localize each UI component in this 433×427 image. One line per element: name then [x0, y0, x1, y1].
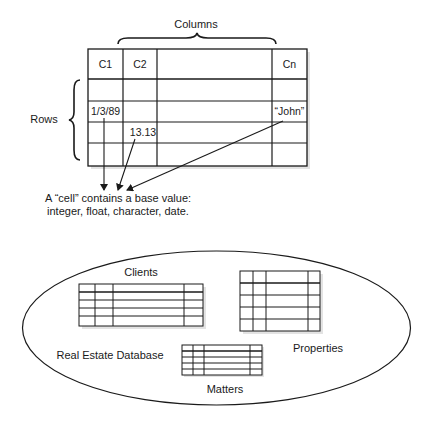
rows-label: Rows — [30, 113, 58, 125]
cell-john: “John” — [275, 105, 305, 117]
caption-line-1: A “cell” contains a base value: — [45, 192, 191, 204]
header-cell-cn: Cn — [283, 58, 297, 70]
caption-line-2: integer, float, character, date. — [47, 205, 189, 217]
cell-date: 1/3/89 — [91, 105, 120, 117]
relational-table-diagram: Columns Rows C1 C2 Cn 1/3/89 “John” 13.1… — [0, 0, 433, 427]
clients-table — [79, 284, 203, 326]
properties-label: Properties — [293, 342, 344, 354]
cell-float: 13.13 — [130, 126, 156, 138]
database-ellipse — [23, 251, 411, 405]
header-cell-c2: C2 — [133, 58, 147, 70]
columns-brace — [118, 33, 276, 44]
header-cell-c1: C1 — [99, 58, 113, 70]
matters-label: Matters — [207, 383, 244, 395]
columns-label: Columns — [174, 18, 218, 30]
rows-brace — [69, 80, 80, 160]
clients-label: Clients — [124, 266, 158, 278]
properties-table — [240, 271, 320, 331]
matters-table — [182, 345, 262, 375]
database-label: Real Estate Database — [56, 349, 163, 361]
